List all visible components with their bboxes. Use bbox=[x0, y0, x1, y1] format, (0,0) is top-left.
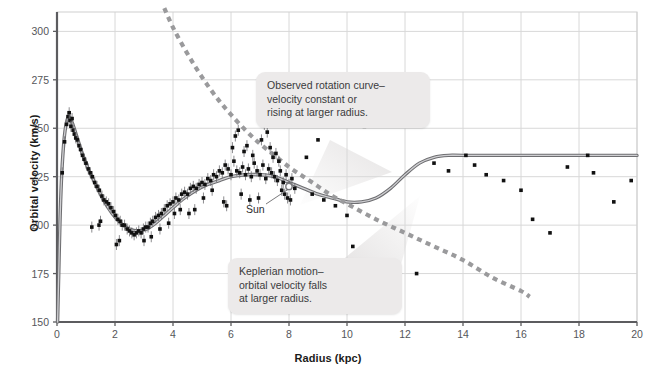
svg-text:20: 20 bbox=[631, 328, 643, 340]
svg-text:150: 150 bbox=[31, 316, 49, 328]
annotation-keplerian-motion: Keplerian motion– orbital velocity falls… bbox=[228, 258, 402, 314]
svg-text:300: 300 bbox=[31, 25, 49, 37]
svg-text:8: 8 bbox=[286, 328, 292, 340]
svg-text:10: 10 bbox=[341, 328, 353, 340]
rotation-curve-figure: 02468101214161820150175200225250275300 O… bbox=[0, 0, 656, 372]
galaxy-rotation-curve-chart: 02468101214161820150175200225250275300 bbox=[0, 0, 656, 372]
svg-text:4: 4 bbox=[170, 328, 176, 340]
svg-text:14: 14 bbox=[457, 328, 469, 340]
sun-label: Sun bbox=[246, 203, 265, 215]
svg-text:16: 16 bbox=[515, 328, 527, 340]
y-axis-label: Orbital velocity (km/s) bbox=[28, 83, 40, 263]
svg-text:6: 6 bbox=[228, 328, 234, 340]
svg-text:0: 0 bbox=[54, 328, 60, 340]
callout-pointers bbox=[300, 140, 420, 268]
svg-text:2: 2 bbox=[112, 328, 118, 340]
sun-marker bbox=[266, 183, 292, 204]
x-axis-label: Radius (kpc) bbox=[0, 352, 656, 364]
svg-text:18: 18 bbox=[573, 328, 585, 340]
svg-text:175: 175 bbox=[31, 268, 49, 280]
annotation-observed-rotation-curve: Observed rotation curve– velocity consta… bbox=[256, 72, 430, 128]
svg-text:12: 12 bbox=[399, 328, 411, 340]
